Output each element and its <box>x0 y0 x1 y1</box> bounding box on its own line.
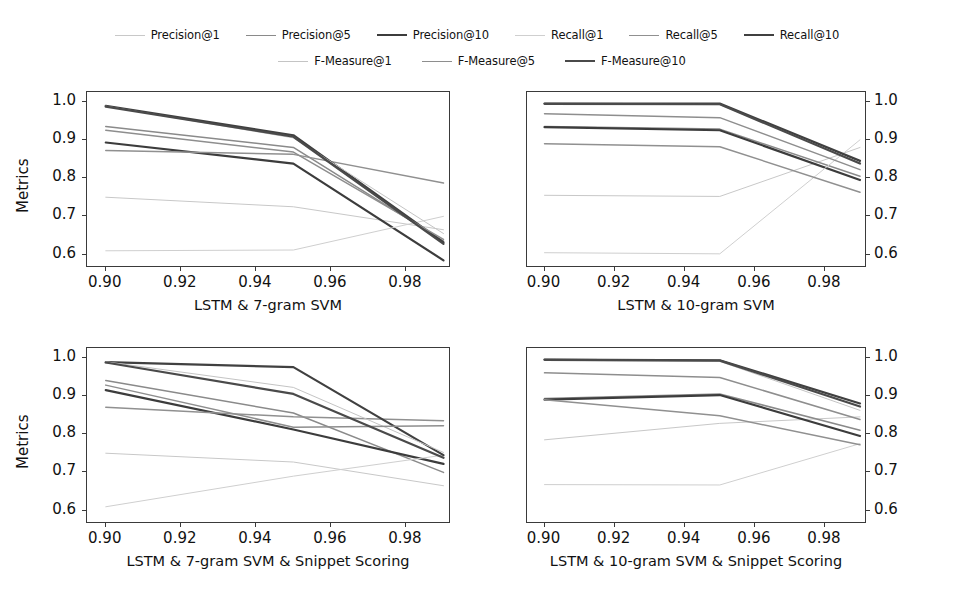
legend-item[interactable]: Precision@5 <box>246 28 351 42</box>
series-line <box>106 126 444 241</box>
y-tick-mark <box>82 177 86 178</box>
x-tick-mark <box>105 523 106 527</box>
series-line <box>545 444 860 485</box>
legend-item[interactable]: F-Measure@10 <box>565 54 686 68</box>
legend-item[interactable]: Precision@10 <box>377 28 489 42</box>
x-tick-label: 0.96 <box>724 529 784 547</box>
y-tick-label: 0.9 <box>874 129 930 147</box>
legend-row-1: Precision@1Precision@5Precision@10Recall… <box>0 22 954 48</box>
legend-label: Recall@1 <box>551 28 603 42</box>
legend-item[interactable]: Recall@10 <box>744 28 840 42</box>
y-tick-mark <box>866 139 870 140</box>
legend-item[interactable]: Recall@1 <box>515 28 603 42</box>
legend-line-icon <box>744 34 774 36</box>
x-tick-label: 0.92 <box>150 529 210 547</box>
x-tick-mark <box>754 523 755 527</box>
y-tick-label: 0.9 <box>20 129 76 147</box>
x-tick-label: 0.92 <box>584 273 644 291</box>
y-tick-label: 0.9 <box>874 385 930 403</box>
x-tick-label: 0.94 <box>654 273 714 291</box>
legend-line-icon <box>629 35 659 36</box>
x-tick-label: 0.90 <box>75 273 135 291</box>
plot-area <box>86 91 450 267</box>
y-tick-mark <box>866 177 870 178</box>
x-tick-mark <box>405 523 406 527</box>
x-tick-mark <box>684 267 685 271</box>
x-tick-label: 0.98 <box>375 273 435 291</box>
series-line <box>106 130 444 239</box>
y-tick-mark <box>82 395 86 396</box>
series-line <box>106 390 444 464</box>
legend-line-icon <box>565 60 595 62</box>
x-tick-label: 0.98 <box>375 529 435 547</box>
x-tick-mark <box>614 267 615 271</box>
y-tick-mark <box>82 433 86 434</box>
y-tick-mark <box>866 510 870 511</box>
series-line <box>545 127 860 180</box>
x-tick-label: 0.90 <box>75 529 135 547</box>
legend-label: Recall@10 <box>780 28 840 42</box>
legend-line-icon <box>422 61 452 62</box>
y-tick-label: 0.9 <box>20 385 76 403</box>
x-tick-mark <box>614 523 615 527</box>
series-canvas <box>527 348 865 522</box>
plot-area <box>86 347 450 523</box>
legend-line-icon <box>115 35 145 36</box>
x-tick-label: 0.94 <box>654 529 714 547</box>
x-tick-mark <box>255 523 256 527</box>
legend-label: Recall@5 <box>665 28 717 42</box>
y-axis-label: Metrics <box>14 159 32 213</box>
x-tick-mark <box>405 267 406 271</box>
y-tick-mark <box>82 101 86 102</box>
y-tick-mark <box>866 471 870 472</box>
x-tick-mark <box>684 523 685 527</box>
legend-item[interactable]: Precision@1 <box>115 28 220 42</box>
series-line <box>545 417 860 440</box>
x-tick-mark <box>544 523 545 527</box>
y-tick-label: 0.8 <box>874 423 930 441</box>
chart-legend: Precision@1Precision@5Precision@10Recall… <box>0 22 954 74</box>
legend-item[interactable]: F-Measure@5 <box>422 54 535 68</box>
plot-area <box>526 91 866 267</box>
series-line <box>545 104 860 163</box>
series-canvas <box>87 348 449 522</box>
figure-root: Precision@1Precision@5Precision@10Recall… <box>0 0 954 606</box>
series-canvas <box>527 92 865 266</box>
legend-item[interactable]: Recall@5 <box>629 28 717 42</box>
x-tick-label: 0.96 <box>724 273 784 291</box>
plot-area <box>526 347 866 523</box>
series-line <box>545 126 860 176</box>
legend-item[interactable]: F-Measure@1 <box>278 54 391 68</box>
x-tick-mark <box>754 267 755 271</box>
y-tick-mark <box>82 510 86 511</box>
y-tick-mark <box>82 215 86 216</box>
series-line <box>545 360 860 407</box>
legend-line-icon <box>246 35 276 36</box>
series-line <box>545 104 860 164</box>
legend-line-icon <box>515 35 545 36</box>
legend-row-2: F-Measure@1F-Measure@5F-Measure@10 <box>0 48 954 74</box>
legend-label: F-Measure@10 <box>601 54 686 68</box>
y-tick-label: 0.6 <box>874 500 930 518</box>
x-axis-title: LSTM & 10-gram SVM & Snippet Scoring <box>446 553 946 569</box>
y-tick-label: 0.6 <box>20 244 76 262</box>
x-tick-mark <box>824 523 825 527</box>
y-axis-label: Metrics <box>14 415 32 469</box>
x-tick-label: 0.98 <box>794 529 854 547</box>
y-tick-mark <box>866 254 870 255</box>
x-tick-label: 0.94 <box>225 273 285 291</box>
y-tick-mark <box>82 254 86 255</box>
y-tick-label: 0.6 <box>874 244 930 262</box>
legend-label: Precision@1 <box>151 28 220 42</box>
y-tick-label: 1.0 <box>20 347 76 365</box>
x-tick-label: 0.90 <box>514 529 574 547</box>
series-line <box>545 144 860 193</box>
x-tick-label: 0.96 <box>300 529 360 547</box>
x-tick-mark <box>180 523 181 527</box>
x-tick-label: 0.96 <box>300 273 360 291</box>
y-tick-mark <box>82 357 86 358</box>
series-line <box>106 107 444 244</box>
legend-label: Precision@10 <box>413 28 489 42</box>
y-tick-mark <box>866 433 870 434</box>
y-tick-label: 1.0 <box>20 91 76 109</box>
